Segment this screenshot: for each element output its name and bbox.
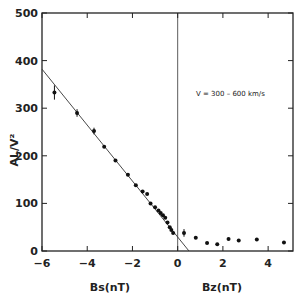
plot-frame [42,13,293,251]
data-point [194,236,198,240]
x-tick-label: 4 [264,257,272,270]
data-point [227,237,231,241]
data-point [282,240,286,244]
data-point [113,159,117,163]
y-tick-label: 500 [15,7,38,20]
y-tick-label: 300 [15,102,38,115]
data-point [134,183,138,187]
data-point [166,220,170,224]
data-point [149,201,153,205]
y-axis-label: AL/V² [8,133,21,166]
data-point [75,111,79,115]
velocity-annotation: V = 300 – 600 km/s [196,90,265,98]
x-tick-label: −2 [124,257,141,270]
data-points [52,85,286,246]
data-point [163,216,167,220]
data-point [237,239,241,243]
data-point [255,238,259,242]
data-point [126,173,130,177]
data-point [182,231,186,235]
data-point [92,129,96,133]
x-tick-label: 0 [174,257,182,270]
data-point [215,242,219,246]
x-axis-label-bs: Bs(nT) [90,281,130,294]
data-point [52,90,56,94]
x-tick-label: −4 [79,257,96,270]
x-axis-label-bz: Bz(nT) [202,281,242,294]
axis-ticks: −6−4−20240100200300400500 [15,7,293,270]
data-point [145,192,149,196]
y-tick-label: 0 [30,245,38,258]
scatter-chart: −6−4−20240100200300400500 AL/V² Bs(nT) B… [0,0,301,300]
data-point [102,145,106,149]
data-point [153,205,157,209]
data-point [205,241,209,245]
data-point [141,190,145,194]
plot-border [42,13,293,251]
x-tick-label: 2 [219,257,227,270]
y-tick-label: 100 [15,197,38,210]
y-tick-label: 400 [15,55,38,68]
data-point [171,231,175,235]
x-tick-label: −6 [34,257,51,270]
